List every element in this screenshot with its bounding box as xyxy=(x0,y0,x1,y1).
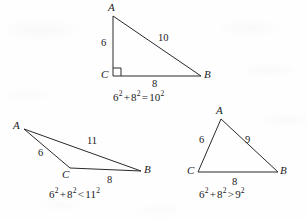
figure-canvas: A B C 6 10 8 62+82=102 A B C 6 11 8 62+8… xyxy=(0,0,307,220)
vertex-label-a: A xyxy=(216,105,223,116)
side-label-hypotenuse: 9 xyxy=(245,135,250,146)
side-label-leg-horizontal: 8 xyxy=(232,177,237,188)
acute-triangle-strokes xyxy=(0,0,307,220)
equation-operator-plus: + xyxy=(209,188,217,200)
side-label-leg-vertical: 6 xyxy=(199,135,204,146)
equation-relation: > xyxy=(227,188,235,200)
acute-triangle-outline xyxy=(198,119,278,172)
acute-triangle-figure: A B C 6 9 8 62+82>92 xyxy=(0,0,307,220)
vertex-label-b: B xyxy=(280,165,287,176)
equation-exp-c: 2 xyxy=(241,186,245,195)
vertex-label-c: C xyxy=(187,165,194,176)
acute-triangle-equation: 62+82>92 xyxy=(199,189,245,200)
